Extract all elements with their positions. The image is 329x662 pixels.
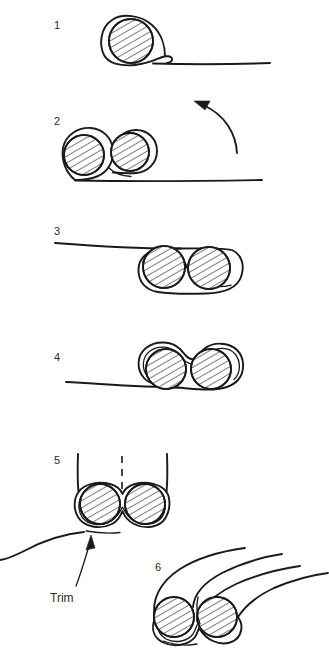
baseline	[75, 180, 262, 181]
sheath-trim-flap	[0, 532, 84, 560]
core-hatching	[195, 595, 241, 641]
panel-number-4: 4	[54, 352, 60, 363]
sheath-bottom-seam	[86, 531, 120, 533]
core-hatching	[152, 595, 198, 641]
rotation-arrow-head	[194, 101, 210, 110]
core-hatching	[141, 244, 189, 292]
trim-label: Trim	[50, 592, 74, 604]
trim-arrow-shaft	[76, 546, 89, 586]
panel-1-drawing	[101, 16, 270, 67]
trim-arrow-head	[86, 535, 95, 550]
core-hatching	[109, 131, 153, 175]
panel-3-drawing	[55, 243, 243, 294]
panel-5-drawing	[0, 454, 169, 586]
core-hatching	[107, 17, 157, 67]
sheath-leg-left	[78, 454, 79, 492]
panel-4-drawing	[66, 342, 243, 393]
figure-root: 1 2 3 4 5 6 Trim	[0, 0, 329, 662]
panel-number-5: 5	[54, 455, 60, 466]
panel-6-drawing	[152, 548, 328, 645]
panel-number-1: 1	[54, 20, 60, 31]
sheath-tail-edge	[238, 573, 328, 617]
sheath-tail-line	[153, 63, 270, 64]
panel-number-2: 2	[54, 116, 60, 127]
panel-number-3: 3	[54, 226, 60, 237]
panel-2-drawing	[62, 101, 262, 181]
figure-canvas	[0, 0, 329, 662]
panel-number-6: 6	[155, 562, 161, 573]
rotation-arrow-shaft	[203, 105, 237, 153]
sheath-leg-right	[167, 454, 168, 492]
